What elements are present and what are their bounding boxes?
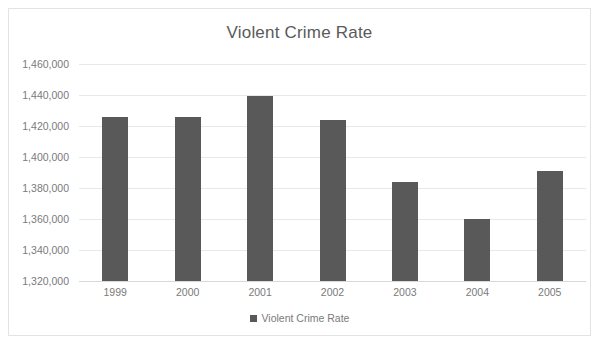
bar [175,117,201,281]
chart-frame: Violent Crime Rate 1,460,0001,440,0001,4… [8,8,591,336]
bar [247,96,273,281]
y-axis-tick-label: 1,400,000 [22,151,69,163]
chart-legend: Violent Crime Rate [9,312,590,324]
y-axis-tick-label: 1,360,000 [22,213,69,225]
bar [392,182,418,281]
y-axis-tick-labels: 1,460,0001,440,0001,420,0001,400,0001,38… [9,64,75,281]
legend-swatch-icon [250,315,257,322]
y-axis-tick-label: 1,340,000 [22,244,69,256]
bar [102,117,128,281]
bar [537,171,563,281]
bar-series [79,64,586,281]
x-axis-tick-label: 2005 [538,286,561,298]
legend-label: Violent Crime Rate [262,312,350,324]
plot-area [79,64,586,281]
x-axis-tick-label: 2000 [176,286,199,298]
x-axis-tick-label: 2002 [321,286,344,298]
x-axis-tick-label: 1999 [104,286,127,298]
bar [320,120,346,281]
x-axis-tick-labels: 1999200020012002200320042005 [79,286,586,306]
bar [464,219,490,281]
y-axis-tick-label: 1,440,000 [22,89,69,101]
y-axis-tick-label: 1,460,000 [22,58,69,70]
y-axis-tick-label: 1,420,000 [22,120,69,132]
x-axis-tick-label: 2004 [466,286,489,298]
x-axis-tick-label: 2003 [393,286,416,298]
x-axis-tick-label: 2001 [248,286,271,298]
y-axis-tick-label: 1,380,000 [22,182,69,194]
gridline [79,281,586,282]
chart-title: Violent Crime Rate [9,23,590,43]
y-axis-tick-label: 1,320,000 [22,275,69,287]
